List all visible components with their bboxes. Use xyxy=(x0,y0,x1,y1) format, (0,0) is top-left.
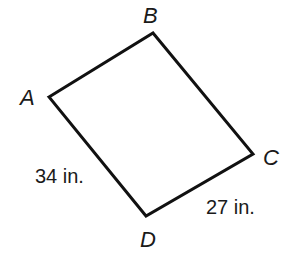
diagram-canvas: B A C D 34 in. 27 in. xyxy=(0,0,294,263)
vertex-label-b: B xyxy=(143,5,158,27)
vertex-label-d: D xyxy=(140,229,156,251)
side-label-ad: 34 in. xyxy=(35,166,84,186)
quadrilateral-abcd xyxy=(0,0,294,263)
vertex-label-c: C xyxy=(263,147,279,169)
quadrilateral-shape xyxy=(49,33,253,216)
side-label-dc: 27 in. xyxy=(206,197,255,217)
vertex-label-a: A xyxy=(20,87,35,109)
